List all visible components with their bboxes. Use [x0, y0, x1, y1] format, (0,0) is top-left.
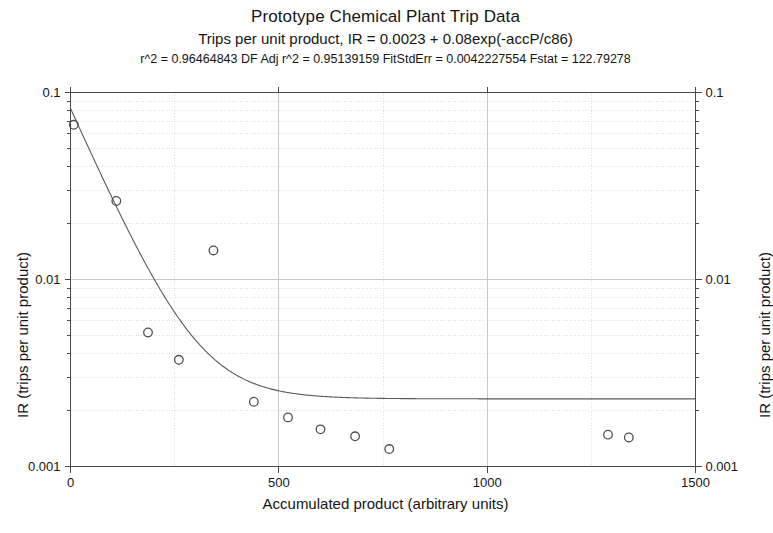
- y-axis-label-right: IR (trips per unit product): [756, 252, 773, 418]
- x-tick-label: 1000: [467, 475, 507, 490]
- y-tick-label-left: 0.1: [0, 85, 61, 100]
- y-tick-label-left: 0.001: [0, 459, 61, 474]
- data-points: [70, 120, 634, 453]
- x-axis-label: Accumulated product (arbitrary units): [0, 495, 771, 512]
- x-tick-label: 1500: [676, 475, 716, 490]
- y-tick-label-right: 0.001: [706, 459, 739, 474]
- y-axis-label-left: IR (trips per unit product): [14, 252, 31, 418]
- y-tick-label-right: 0.01: [706, 272, 731, 287]
- y-tick-label-right: 0.1: [706, 85, 724, 100]
- x-tick-label: 500: [259, 475, 299, 490]
- x-tick-label: 0: [51, 475, 91, 490]
